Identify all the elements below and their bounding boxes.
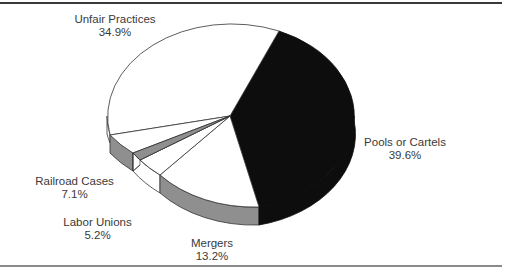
label-pools-or-cartels: Pools or Cartels 39.6% xyxy=(355,136,455,162)
label-name: Labor Unions xyxy=(50,216,145,229)
label-mergers: Mergers 13.2% xyxy=(172,237,252,263)
label-name: Unfair Practices xyxy=(60,13,170,26)
label-name: Pools or Cartels xyxy=(355,136,455,149)
label-value: 34.9% xyxy=(60,26,170,39)
label-railroad-cases: Railroad Cases 7.1% xyxy=(27,175,122,201)
label-name: Mergers xyxy=(172,237,252,250)
label-name: Railroad Cases xyxy=(27,175,122,188)
label-value: 7.1% xyxy=(27,188,122,201)
label-labor-unions: Labor Unions 5.2% xyxy=(50,216,145,242)
label-value: 5.2% xyxy=(50,229,145,242)
label-unfair-practices: Unfair Practices 34.9% xyxy=(60,13,170,39)
label-value: 13.2% xyxy=(172,250,252,263)
label-value: 39.6% xyxy=(355,149,455,162)
bottom-rule xyxy=(0,265,502,267)
